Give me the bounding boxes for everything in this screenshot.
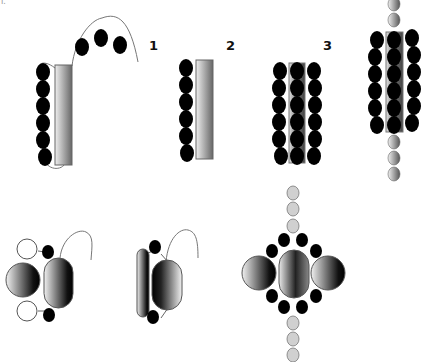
end-view xyxy=(242,186,345,362)
stage-2 xyxy=(272,62,322,165)
side-view-b xyxy=(137,230,198,324)
diagram-canvas: I. 1 2 3 xyxy=(0,0,423,362)
stage-0-unfolded xyxy=(36,16,138,168)
stage-1 xyxy=(179,59,213,162)
diagram-svg xyxy=(0,0,423,362)
side-view-a xyxy=(6,231,92,322)
stage-3 xyxy=(368,0,421,181)
